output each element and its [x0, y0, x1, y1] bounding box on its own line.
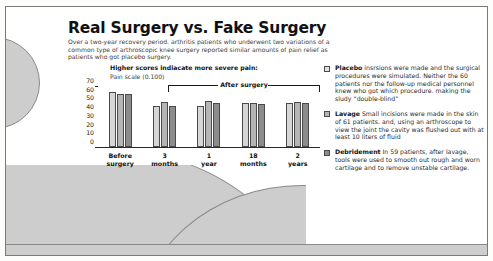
y-axis-tick-label: 50 — [81, 94, 94, 101]
x-axis-label: 1year — [187, 152, 231, 172]
y-axis-tick-label: 0 — [81, 138, 94, 145]
bar-group — [142, 87, 186, 147]
chart-axis-caption: Pain scale (0.100) — [110, 73, 164, 80]
bar-debridement — [213, 103, 220, 147]
y-axis-tick-label: 10 — [81, 129, 94, 136]
legend-text: Placebo insrsions were made and the surg… — [335, 64, 484, 103]
legend-item-debridement: Debridement In 59 patients, after lavage… — [324, 148, 484, 171]
legend-text: Debridement In 59 patients, after lavage… — [335, 148, 484, 171]
chart-note-scores: Higher scores indiacate more severe pain… — [110, 64, 258, 71]
bar-group — [231, 87, 275, 147]
bar-placebo — [153, 106, 160, 147]
poster-frame: Real Surgery vs. Fake Surgery Over a two… — [5, 6, 488, 256]
bar-lavage — [117, 94, 124, 147]
y-axis-tick-label: 60 — [81, 85, 94, 92]
x-axis-label: 2years — [276, 152, 320, 172]
y-axis-tick-label: 20 — [81, 120, 94, 127]
legend-item-placebo: Placebo insrsions were made and the surg… — [324, 64, 484, 103]
x-axis-label: 18months — [231, 152, 275, 172]
page-title: Real Surgery vs. Fake Surgery — [68, 19, 326, 37]
legend-swatch-icon — [324, 66, 330, 72]
infographic-page: Real Surgery vs. Fake Surgery Over a two… — [0, 0, 493, 261]
y-axis: 010203040506070 — [84, 87, 98, 148]
y-axis-tick-label: 70 — [81, 77, 94, 84]
bar-placebo — [242, 103, 249, 147]
bar-lavage — [205, 101, 212, 147]
legend-text: Lavage Small incisions were made in the … — [335, 110, 484, 141]
y-axis-tick-label: 30 — [81, 112, 94, 119]
legend-item-lavage: Lavage Small incisions were made in the … — [324, 110, 484, 141]
legend: Placebo insrsions were made and the surg… — [324, 64, 484, 179]
bar-debridement — [169, 106, 176, 147]
bracket-line-left — [168, 85, 218, 86]
bar-placebo — [197, 106, 204, 147]
y-axis-tick-label: 40 — [81, 103, 94, 110]
bar-lavage — [294, 102, 301, 147]
bar-group — [187, 87, 231, 147]
legend-term: Debridement — [335, 148, 381, 155]
bar-debridement — [302, 103, 309, 147]
chart: Higher scores indiacate more severe pain… — [68, 64, 320, 174]
bar-lavage — [161, 102, 168, 147]
legend-swatch-icon — [324, 111, 330, 117]
bar-group — [98, 87, 142, 147]
legend-term: Lavage — [335, 110, 360, 117]
bar-placebo — [286, 103, 293, 147]
x-axis-label: 3months — [142, 152, 186, 172]
bar-groups — [98, 87, 320, 147]
legend-term: Placebo — [335, 64, 362, 71]
page-subtitle: Over a two-year recovery period. arthrit… — [68, 38, 340, 61]
plot-area: 010203040506070 — [98, 87, 320, 148]
bar-group — [276, 87, 320, 147]
bar-debridement — [258, 104, 265, 147]
bar-placebo — [109, 92, 116, 147]
x-axis-baseline — [95, 147, 320, 148]
bar-lavage — [250, 103, 257, 147]
legend-swatch-icon — [324, 150, 330, 156]
x-axis-label: Beforesurgery — [98, 152, 142, 172]
poster-content: Real Surgery vs. Fake Surgery Over a two… — [6, 7, 487, 255]
bar-debridement — [125, 94, 132, 147]
x-axis-labels: Beforesurgery3months1year18months2years — [98, 152, 320, 172]
bracket-line-right — [268, 85, 320, 86]
